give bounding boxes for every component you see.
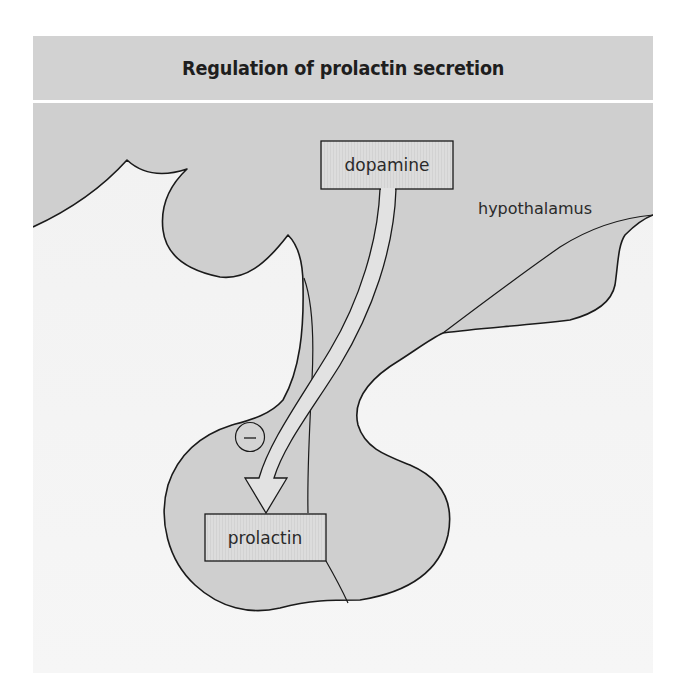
dopamine-label: dopamine [345, 155, 430, 175]
prolactin-box: prolactin [205, 514, 326, 561]
hypothalamus-label: hypothalamus [478, 199, 592, 218]
prolactin-regulation-diagram: dopamine prolactin hypothalamus [33, 103, 653, 673]
prolactin-label: prolactin [228, 528, 302, 548]
figure-header: Regulation of prolactin secretion [33, 36, 653, 100]
figure-title: Regulation of prolactin secretion [182, 57, 504, 79]
dopamine-box: dopamine [321, 141, 453, 189]
figure-panel: Regulation of prolactin secretion [33, 36, 653, 673]
inhibition-symbol [236, 423, 265, 452]
